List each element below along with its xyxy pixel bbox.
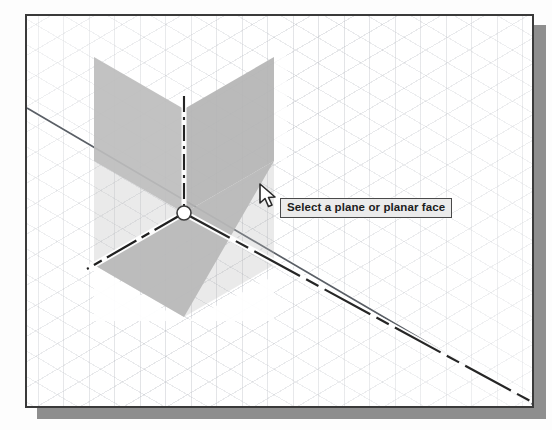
mouse-pointer-icon: [259, 183, 281, 211]
origin-marker[interactable]: [177, 206, 191, 220]
viewport-frame: Select a plane or planar face: [25, 14, 534, 408]
cad-viewport-canvas[interactable]: Select a plane or planar face: [27, 16, 532, 406]
tooltip-select-plane: Select a plane or planar face: [280, 198, 452, 218]
screenshot-root: Select a plane or planar face: [0, 0, 552, 430]
